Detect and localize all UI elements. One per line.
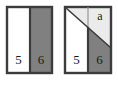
left-white-region-label: 5 [15,52,22,67]
right-gray-region-label: 6 [96,52,103,67]
right-rectangle-panel: 5 6 a [65,7,111,73]
left-rectangle-panel: 5 6 [7,7,52,73]
right-white-region-label: 5 [73,52,80,67]
two-rectangles-diagram: 5 6 5 6 a [0,0,118,85]
left-gray-region-label: 6 [38,52,45,67]
figure-stage: 5 6 5 6 a [0,0,118,85]
diagonal-triangle-region-label: a [97,9,103,23]
